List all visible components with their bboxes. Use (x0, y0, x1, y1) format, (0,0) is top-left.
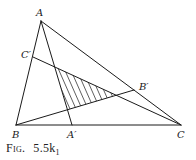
label-a: A (35, 7, 43, 18)
label-a-prime: A′ (66, 129, 77, 140)
triangle-cevian-diagram: A B C A′ B′ C′ (0, 0, 196, 160)
side-ca (41, 21, 181, 125)
figure-caption: Fig.5.5k1 (6, 141, 60, 157)
caption-prefix: Fig. (6, 141, 25, 155)
caption-number: 5.5k (33, 141, 55, 155)
label-c: C (177, 129, 185, 140)
label-b-prime: B′ (138, 81, 149, 92)
label-c-prime: C′ (21, 49, 32, 60)
side-ab (16, 21, 41, 125)
caption-subscript: 1 (56, 148, 60, 157)
label-b: B (11, 129, 19, 140)
cevian-c-c-prime (33, 57, 181, 125)
